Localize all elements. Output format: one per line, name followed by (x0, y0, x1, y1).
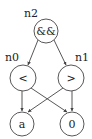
node-text: a (19, 118, 26, 131)
node-n2: && n2 (24, 7, 58, 44)
edge-n2-n1 (54, 40, 66, 65)
node-text: && (36, 25, 56, 38)
node-label: n2 (24, 7, 38, 20)
node-text: > (66, 72, 75, 85)
node-zero: 0 (60, 112, 84, 136)
edge-n1-a (28, 88, 63, 112)
node-text: < (18, 72, 27, 85)
node-text: 0 (69, 118, 76, 131)
node-n1: > n1 (58, 51, 89, 92)
node-a: a (10, 112, 34, 136)
expression-tree-diagram: && n2 < n0 > n1 a 0 (0, 0, 92, 139)
node-label: n0 (5, 51, 19, 64)
node-label: n1 (75, 51, 89, 64)
edge-n0-zero (31, 88, 67, 112)
edge-n2-n0 (28, 40, 38, 65)
